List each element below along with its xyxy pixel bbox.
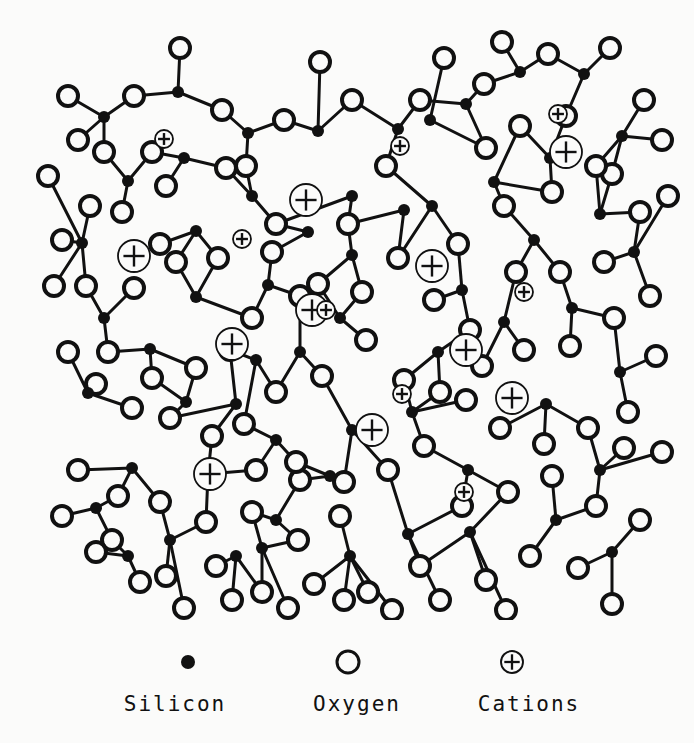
oxygen-atom [376,156,396,176]
oxygen-atom [542,466,562,486]
silicon-atom [230,550,242,562]
oxygen-atom [242,502,262,522]
silicon-atom [164,534,176,546]
silicon-atom [294,346,306,358]
oxygen-atom [38,166,58,186]
oxygen-atom [288,530,308,550]
oxygen-atom [410,556,430,576]
oxygen-atom [586,496,606,516]
silicon-atom [432,346,444,358]
silicon-atom [402,528,414,540]
cation-large [450,334,482,366]
silicon-atom [540,398,552,410]
silicon-atom [178,152,190,164]
silicon-atom [392,123,404,135]
cation-small [391,137,409,155]
oxygen-atom [492,32,512,52]
silicon-atom [550,514,562,526]
oxygen-atom [170,38,190,58]
oxygen-atom [266,214,286,234]
oxygen-atom [448,234,468,254]
oxygen-atom [506,262,526,282]
silicon-atom [344,550,356,562]
oxygen-atom [342,90,362,110]
bond-layer [48,42,668,610]
silicon-atom [172,86,184,98]
silicon-atom [566,302,578,314]
oxygen-atom [658,186,678,206]
oxygen-atom [266,382,286,402]
silicon-atom [312,125,324,137]
oxygen-atom [538,44,558,64]
silicon-atom [464,526,476,538]
oxygen-atom [68,130,88,150]
legend-cations-icon [501,651,523,673]
silicon-atom [488,176,500,188]
silicon-atom [628,246,640,258]
silicon-atom [270,514,282,526]
cation-large [356,414,388,446]
oxygen-atom [44,276,64,296]
oxygen-atom [388,248,408,268]
oxygen-atom [646,346,666,366]
legend-silicon-icon [181,655,195,669]
oxygen-atom [246,460,266,480]
silicon-atom [190,225,202,237]
silicon-atom [426,200,438,212]
oxygen-atom [358,582,378,602]
oxygen-atom [534,434,554,454]
cation-small [549,105,567,123]
silicate-network-diagram [0,0,694,620]
oxygen-atom [456,390,476,410]
oxygen-atom [208,248,228,268]
oxygen-atom [150,234,170,254]
oxygen-atom [560,336,580,356]
oxygen-atom [640,286,660,306]
legend: Silicon Oxygen Cations [0,640,694,743]
silicon-atom [262,279,274,291]
oxygen-atom [308,274,328,294]
oxygen-atom [262,242,282,262]
oxygen-atom [156,566,176,586]
oxygen-atom [312,366,332,386]
cation-small [317,301,335,319]
silicon-atom [594,464,606,476]
silicon-atom [76,237,88,249]
oxygen-atom [156,176,176,196]
oxygen-atom [122,398,142,418]
silicon-atom [514,66,526,78]
oxygen-atom [550,262,570,282]
oxygen-atom [278,598,298,618]
oxygen-atom [352,282,372,302]
oxygen-atom [630,510,650,530]
oxygen-atom [476,570,496,590]
silicon-atom [614,366,626,378]
oxygen-atom [76,276,96,296]
oxygen-atom [356,330,376,350]
silicon-atom [302,226,314,238]
silicon-atom [270,434,282,446]
oxygen-atom [476,138,496,158]
legend-label-cations: Cations [441,692,617,716]
oxygen-atom [222,590,242,610]
silicon-atom [498,316,510,328]
oxygen-atom [206,556,226,576]
oxygen-atom [382,600,402,620]
oxygen-atom [150,492,170,512]
oxygen-atom [58,86,78,106]
oxygen-atom [594,252,614,272]
oxygen-atom [498,482,518,502]
cation-large [496,382,528,414]
silicon-atom [126,462,138,474]
silicon-atom [346,190,358,202]
oxygen-atom [94,142,114,162]
oxygen-atom [212,100,232,120]
oxygen-atom [414,436,434,456]
silicon-atom [334,312,346,324]
oxygen-atom [108,486,128,506]
oxygen-atom [98,342,118,362]
oxygen-atom [216,158,236,178]
oxygen-atom [430,590,450,610]
silicon-atom [230,398,242,410]
oxygen-atom [68,460,88,480]
